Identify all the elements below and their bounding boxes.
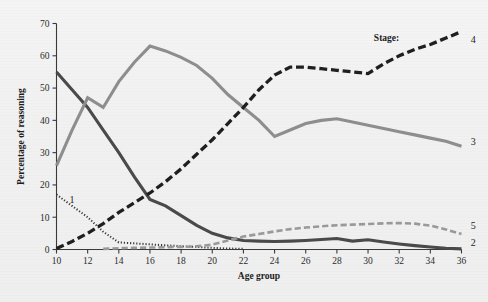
series-label-4: 4 <box>471 34 476 45</box>
x-axis-tick-label: 16 <box>145 256 155 266</box>
x-axis-tick-label: 28 <box>332 256 342 266</box>
x-axis-tick-label: 34 <box>426 256 436 266</box>
x-axis-tick-label: 30 <box>363 256 373 266</box>
x-axis-tick-label: 18 <box>176 256 186 266</box>
y-axis-tick-label: 60 <box>40 51 50 61</box>
x-axis-title: Age group <box>238 271 280 281</box>
x-axis-tick-label: 32 <box>394 256 404 266</box>
series-line-3 <box>57 46 462 165</box>
figure-canvas: 0102030405060701012141618202224262830323… <box>0 0 488 302</box>
series-line-1 <box>57 195 244 249</box>
x-axis-tick-label: 10 <box>52 256 62 266</box>
x-axis-tick-label: 36 <box>457 256 467 266</box>
y-axis-tick-label: 10 <box>40 213 50 223</box>
x-axis-tick-label: 12 <box>83 256 93 266</box>
x-axis-tick-label: 20 <box>208 256 218 266</box>
y-axis-tick-label: 50 <box>40 83 50 93</box>
x-axis-tick-label: 14 <box>114 256 124 266</box>
y-axis-tick-label: 70 <box>40 19 50 29</box>
series-line-4 <box>57 32 462 249</box>
y-axis-tick-label: 30 <box>40 148 50 158</box>
legend-title: Stage: <box>374 33 399 43</box>
y-axis-tick-label: 0 <box>45 245 50 255</box>
x-axis-tick-label: 26 <box>301 256 311 266</box>
x-axis-tick-label: 22 <box>239 256 249 266</box>
series-label-1: 1 <box>70 194 75 205</box>
series-label-3: 3 <box>471 136 476 147</box>
series-label-5: 5 <box>471 220 476 231</box>
y-axis-tick-label: 40 <box>40 116 50 126</box>
line-chart: 0102030405060701012141618202224262830323… <box>0 0 488 302</box>
x-axis-tick-label: 24 <box>270 256 280 266</box>
series-label-2: 2 <box>471 237 476 248</box>
axis-lines <box>57 24 462 250</box>
y-axis-tick-label: 20 <box>40 180 50 190</box>
y-axis-title: Percentage of reasoning <box>16 88 26 185</box>
